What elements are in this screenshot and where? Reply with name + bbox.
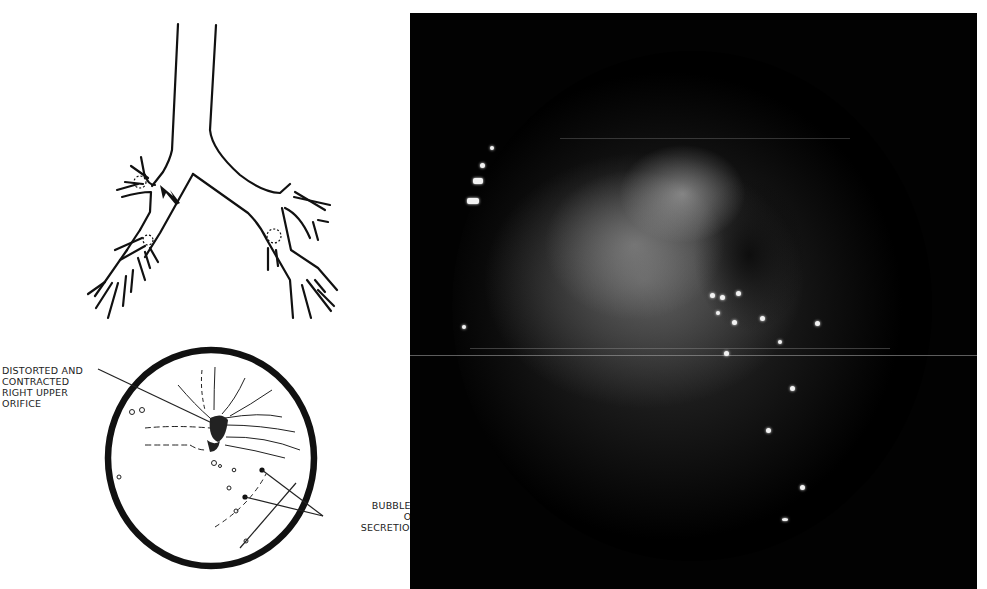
schematic-panel: Distorted and contracted right upper ori… bbox=[0, 0, 405, 589]
secretion-bubble bbox=[732, 320, 737, 325]
secretion-bubble bbox=[473, 178, 483, 184]
bronchoscopy-photograph bbox=[410, 13, 977, 589]
secretion-bubble bbox=[766, 428, 771, 433]
secretion-bubble bbox=[790, 386, 795, 391]
secretion-bubble bbox=[760, 316, 765, 321]
secretion-bubble bbox=[490, 146, 494, 150]
secretion-bubble bbox=[724, 351, 729, 356]
label-bubbles-of-secretion: Bubbles of secretion bbox=[357, 500, 417, 533]
secretion-bubble bbox=[778, 340, 782, 344]
secretion-bubble bbox=[720, 295, 725, 300]
secretion-bubble bbox=[815, 321, 820, 326]
scan-line bbox=[470, 348, 890, 349]
bronchial-tree-drawing bbox=[0, 0, 405, 589]
secretion-bubble bbox=[716, 311, 720, 315]
secretion-bubble bbox=[480, 163, 485, 168]
secretion-bubble bbox=[800, 485, 805, 490]
arrow-icon bbox=[160, 185, 180, 205]
secretion-bubble bbox=[710, 293, 715, 298]
scan-line bbox=[410, 355, 977, 356]
endoscopic-field bbox=[452, 51, 932, 561]
secretion-bubble bbox=[782, 518, 788, 521]
endoscopic-view-circle bbox=[98, 350, 323, 566]
scan-line bbox=[560, 138, 850, 139]
secretion-bubble bbox=[736, 291, 741, 296]
label-distorted-orifice: Distorted and contracted right upper ori… bbox=[2, 365, 102, 409]
secretion-bubble bbox=[467, 198, 479, 204]
secretion-bubble bbox=[462, 325, 466, 329]
